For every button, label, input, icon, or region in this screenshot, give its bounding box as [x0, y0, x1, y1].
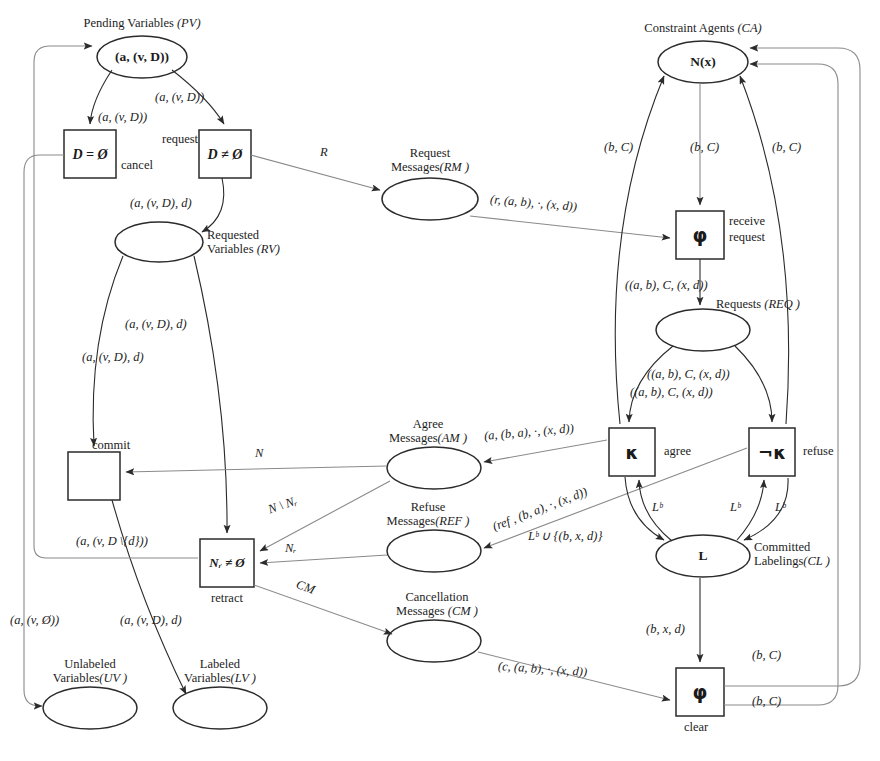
- arc-label-req-refuse: ((a, b), C, (x, d)): [647, 367, 730, 382]
- arc-retract-cm: [254, 585, 392, 634]
- place-token-CL: L: [698, 548, 707, 564]
- arc-label-request-rv: (a, (v, D), d): [130, 196, 192, 211]
- place-RM: [382, 178, 478, 220]
- transition-guard-cancel: D = Ø: [72, 147, 107, 163]
- place-UV: [43, 687, 137, 729]
- transition-guard-refuse: ¬κ: [758, 442, 786, 463]
- place-label-CL: Committed Labelings(CL ): [754, 540, 830, 568]
- place-label-UV: Unlabeled Variables(UV ): [53, 657, 127, 685]
- place-label-RM: Request Messages(RM ): [391, 146, 469, 174]
- transition-guard-clear: φ: [693, 681, 708, 703]
- arc-label-Lb-union: Lᵇ ∪ {(b, x, d)}: [528, 528, 602, 544]
- arc-rv-retract: [194, 256, 227, 533]
- arc-ref-retract: [260, 555, 387, 563]
- place-label-CM: Cancellation Messages (CM ): [396, 590, 478, 618]
- arc-request-rm: [251, 155, 380, 190]
- transition-name-commit: commit: [92, 438, 130, 453]
- arc-label-bC-left: (b, C): [604, 140, 633, 155]
- place-label-LV: Labeled Variables(LV ): [184, 657, 256, 685]
- arc-label-N: N: [255, 446, 263, 461]
- transition-name-agree: agree: [664, 444, 691, 459]
- arc-request-rv: [202, 178, 224, 232]
- place-token-PV: (a, (v, D)): [115, 49, 169, 65]
- arc-refuse-ca: [740, 76, 789, 424]
- arc-rm-receive: [470, 216, 670, 238]
- arc-clear-ca-inner: [724, 64, 838, 705]
- arc-am-retract: [260, 481, 390, 551]
- arc-label-Lb-2: Lᵇ: [730, 500, 740, 515]
- transition-guard-request: D ≠ Ø: [208, 147, 243, 163]
- arc-label-retract-pv: (a, (v, D \{d})): [76, 534, 148, 549]
- transition-name-refuse: refuse: [803, 444, 834, 459]
- arc-label-cancel-uv: (a, (v, Ø)): [10, 613, 59, 628]
- place-label-CA: Constraint Agents (CA): [644, 21, 761, 35]
- transition-guard-agree: κ: [626, 442, 639, 463]
- arc-label-receive-req: ((a, b), C, (x, d)): [625, 278, 708, 293]
- arc-label-Lb-3: Lᵇ: [775, 500, 785, 515]
- place-REF: [387, 530, 481, 572]
- arc-label-req-agree: ((a, b), C, (x, d)): [630, 385, 713, 400]
- arc-req-agree: [629, 346, 673, 422]
- place-LV: [173, 687, 267, 729]
- transition-name-cancel: cancel: [121, 158, 153, 173]
- place-label-PV: Pending Variables (PV): [83, 16, 200, 30]
- arc-label-Lb-1: Lᵇ: [652, 500, 662, 515]
- arc-label-bC-right: (b, C): [772, 140, 801, 155]
- place-label-REQ: Requests (REQ ): [716, 297, 800, 311]
- place-label-RV: Requested Variables (RV): [207, 228, 280, 256]
- place-token-CA: N(x): [690, 54, 716, 70]
- place-label-AM: Agree Messages(AM ): [389, 417, 467, 445]
- place-label-REF: Refuse Messages(REF ): [387, 500, 470, 528]
- arc-label-pv-request: (a, (v, D)): [155, 90, 204, 105]
- arc-agree-am: [484, 440, 607, 462]
- transition-name-clear: clear: [684, 720, 708, 735]
- place-CM: [387, 620, 481, 662]
- arc-label-bC-clear-bottom: (b, C): [752, 694, 781, 709]
- arc-am-commit: [126, 466, 387, 472]
- arc-label-rv-commit: (a, (v, D), d): [82, 350, 144, 365]
- transition-name-receive: receive: [729, 214, 765, 229]
- arc-label-commit-lv: (a, (v, D), d): [120, 613, 182, 628]
- transition-name-request: request: [162, 132, 198, 147]
- transition-commit: [68, 452, 120, 500]
- arc-label-cl-clear: (b, x, d): [646, 622, 685, 637]
- arc-label-bC-clear-top: (b, C): [752, 648, 781, 663]
- transition-guard-retract: Nᵣ ≠ Ø: [209, 555, 244, 571]
- arc-req-refuse: [735, 346, 772, 422]
- diagram-canvas: Pending Variables (PV) (a, (v, D)) Reque…: [0, 0, 880, 761]
- transition-name-receive-2: request: [729, 230, 765, 245]
- arc-label-Nr: Nᵣ: [285, 541, 296, 556]
- arc-label-rv-retract: (a, (v, D), d): [125, 317, 187, 332]
- arc-label-R: R: [320, 145, 328, 160]
- transition-guard-receive-request: φ: [693, 224, 708, 246]
- place-AM: [387, 447, 481, 489]
- place-REQ: [656, 309, 750, 351]
- arc-label-bC-mid: (b, C): [690, 140, 719, 155]
- place-RV: [115, 222, 203, 262]
- arc-label-pv-cancel: (a, (v, D)): [98, 110, 147, 125]
- transition-name-retract: retract: [211, 591, 243, 606]
